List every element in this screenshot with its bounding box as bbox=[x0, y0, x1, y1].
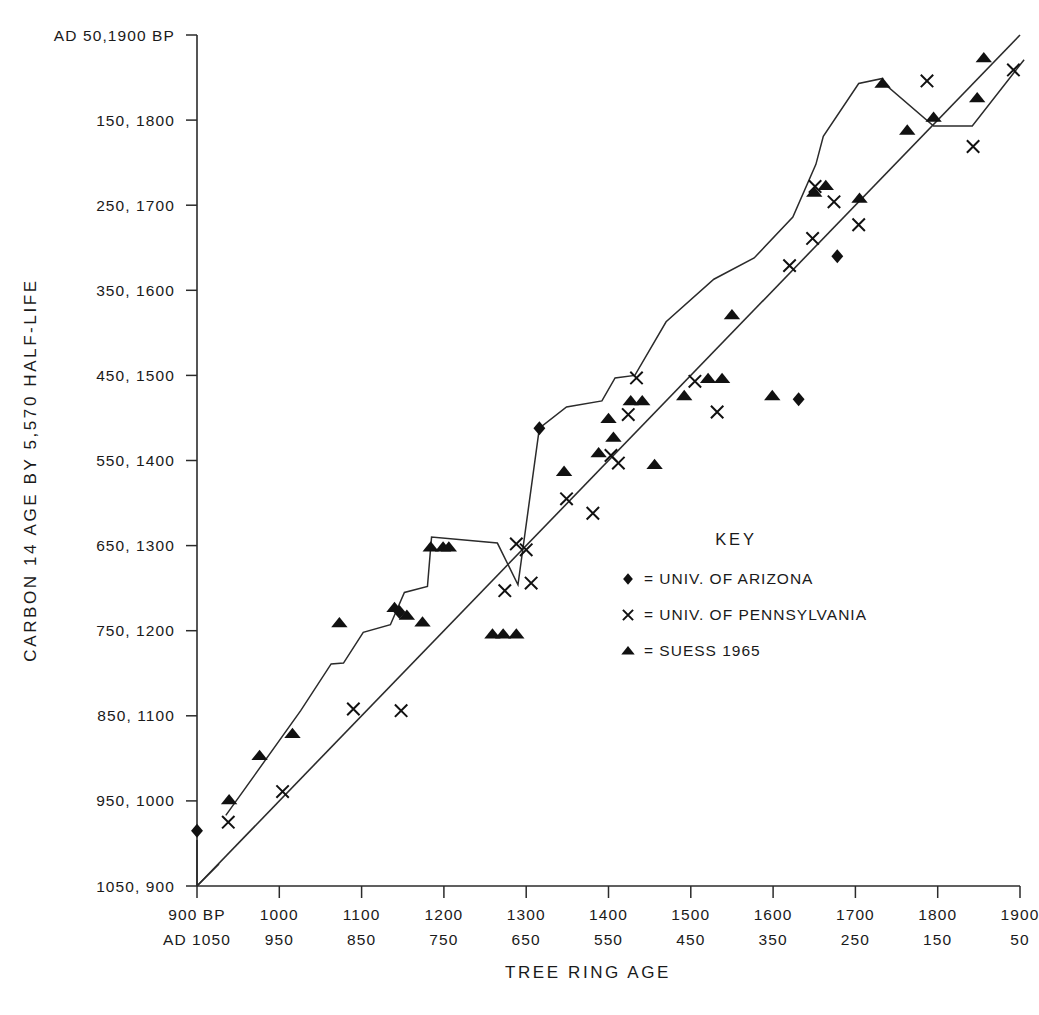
data-point-triangle-16 bbox=[605, 432, 621, 442]
x-tick-label-ad-1800: 150 bbox=[923, 931, 952, 948]
x-axis-tick-labels-bp: 900 BP1000110012001300140015001600170018… bbox=[168, 906, 1039, 923]
data-point-triangle-6 bbox=[414, 616, 430, 626]
data-point-triangle-23 bbox=[724, 309, 740, 319]
y-axis-tick-marks bbox=[186, 35, 197, 886]
x-tick-label-bp-900: 900 BP bbox=[168, 906, 225, 923]
data-point-x-21 bbox=[921, 75, 933, 87]
legend-label-1: = UNIV. OF PENNSYLVANIA bbox=[644, 606, 867, 623]
x-tick-label-bp-1100: 1100 bbox=[343, 906, 381, 923]
data-point-triangle-18 bbox=[634, 395, 650, 405]
y-axis-arrowhead bbox=[197, 840, 219, 886]
y-tick-label-900: 1050, 900 bbox=[96, 878, 175, 895]
x-tick-label-bp-1400: 1400 bbox=[589, 906, 628, 923]
legend-title: KEY bbox=[715, 530, 756, 548]
x-axis-tick-labels-ad: AD 105095085075065055045035025015050 bbox=[163, 931, 1030, 948]
x-tick-label-ad-1000: 950 bbox=[265, 931, 294, 948]
x-axis-tick-marks bbox=[197, 886, 1020, 898]
data-point-triangle-12 bbox=[508, 628, 524, 638]
reference-line bbox=[197, 35, 1020, 886]
x-tick-label-bp-1700: 1700 bbox=[836, 906, 875, 923]
data-point-triangle-3 bbox=[331, 617, 347, 627]
x-tick-label-ad-1600: 350 bbox=[759, 931, 788, 948]
data-point-triangle-11 bbox=[495, 628, 511, 638]
y-tick-label-1700: 250, 1700 bbox=[96, 197, 175, 214]
x-tick-label-ad-1100: 850 bbox=[347, 931, 376, 948]
x-tick-label-ad-1500: 450 bbox=[676, 931, 705, 948]
data-point-triangle-30 bbox=[925, 112, 941, 122]
x-tick-label-ad-1200: 750 bbox=[429, 931, 458, 948]
data-point-x-12 bbox=[622, 408, 634, 420]
data-point-x-17 bbox=[806, 232, 818, 244]
y-tick-label-1800: 150, 1800 bbox=[96, 112, 175, 129]
data-point-x-11 bbox=[612, 457, 624, 469]
data-point-triangle-21 bbox=[700, 373, 716, 383]
x-tick-label-bp-1900: 1900 bbox=[1001, 906, 1039, 923]
data-point-triangle-29 bbox=[899, 124, 915, 134]
y-tick-label-1100: 850, 1100 bbox=[97, 707, 175, 724]
data-point-diamond-3 bbox=[793, 392, 805, 406]
y-axis-title: CARBON 14 AGE BY 5,570 HALF-LIFE bbox=[21, 278, 40, 661]
data-point-triangle-15 bbox=[600, 413, 616, 423]
data-point-x-1 bbox=[276, 785, 288, 797]
carbon14-calibration-figure: AD 50,1900 BP150, 1800250, 1700350, 1600… bbox=[0, 0, 1039, 1015]
data-point-x-22 bbox=[967, 140, 979, 152]
legend-marker-triangle bbox=[621, 646, 634, 654]
x-tick-label-bp-1200: 1200 bbox=[424, 906, 463, 923]
series-univ-of-pennsylvania bbox=[222, 64, 1020, 829]
x-tick-label-ad-1400: 550 bbox=[594, 931, 623, 948]
x-tick-label-ad-1300: 650 bbox=[512, 931, 541, 948]
data-point-diamond-0 bbox=[191, 824, 203, 838]
data-point-x-2 bbox=[347, 703, 359, 715]
legend: = UNIV. OF ARIZONA= UNIV. OF PENNSYLVANI… bbox=[621, 570, 867, 659]
data-point-triangle-31 bbox=[969, 92, 985, 102]
data-point-x-3 bbox=[395, 704, 407, 716]
data-point-triangle-32 bbox=[976, 52, 992, 62]
calibration-curve bbox=[226, 60, 1024, 816]
data-point-x-16 bbox=[783, 259, 795, 271]
legend-label-2: = SUESS 1965 bbox=[644, 642, 761, 659]
data-point-x-0 bbox=[222, 816, 234, 828]
y-tick-label-1000: 950, 1000 bbox=[96, 792, 175, 809]
data-point-x-19 bbox=[828, 196, 840, 208]
y-tick-label-1200: 750, 1200 bbox=[96, 622, 175, 639]
legend-marker-x bbox=[623, 610, 633, 620]
y-axis-tick-labels: AD 50,1900 BP150, 1800250, 1700350, 1600… bbox=[54, 27, 175, 895]
x-tick-label-bp-1000: 1000 bbox=[260, 906, 299, 923]
data-point-diamond-2 bbox=[533, 421, 545, 435]
y-tick-label-1500: 450, 1500 bbox=[96, 367, 175, 384]
series-suess-1965 bbox=[221, 52, 992, 804]
x-tick-label-bp-1500: 1500 bbox=[671, 906, 710, 923]
x-tick-label-bp-1600: 1600 bbox=[754, 906, 793, 923]
x-tick-label-bp-1300: 1300 bbox=[507, 906, 546, 923]
data-point-triangle-1 bbox=[251, 750, 267, 760]
data-point-triangle-19 bbox=[646, 459, 662, 469]
y-tick-label-1900: AD 50,1900 BP bbox=[54, 27, 175, 44]
data-point-triangle-0 bbox=[221, 794, 237, 804]
x-tick-label-ad-900: AD 1050 bbox=[163, 931, 231, 948]
data-point-x-15 bbox=[711, 406, 723, 418]
x-axis-title: TREE RING AGE bbox=[505, 963, 671, 982]
y-tick-label-1400: 550, 1400 bbox=[96, 452, 175, 469]
legend-label-0: = UNIV. OF ARIZONA bbox=[644, 570, 813, 587]
x-tick-label-ad-1900: 50 bbox=[1010, 931, 1029, 948]
data-point-x-20 bbox=[852, 219, 864, 231]
y-tick-label-1600: 350, 1600 bbox=[96, 282, 175, 299]
data-point-x-14 bbox=[689, 375, 701, 387]
x-tick-label-bp-1800: 1800 bbox=[918, 906, 957, 923]
legend-marker-diamond bbox=[623, 573, 633, 584]
data-point-triangle-22 bbox=[714, 373, 730, 383]
data-point-x-7 bbox=[525, 577, 537, 589]
data-point-triangle-14 bbox=[590, 447, 606, 457]
data-point-triangle-20 bbox=[676, 390, 692, 400]
x-tick-label-ad-1700: 250 bbox=[841, 931, 870, 948]
chart-canvas: AD 50,1900 BP150, 1800250, 1700350, 1600… bbox=[0, 0, 1039, 1015]
y-tick-label-1300: 650, 1300 bbox=[96, 537, 175, 554]
data-point-x-9 bbox=[587, 507, 599, 519]
data-point-x-4 bbox=[499, 585, 511, 597]
data-point-triangle-13 bbox=[556, 466, 572, 476]
data-point-diamond-4 bbox=[831, 249, 843, 263]
data-point-triangle-24 bbox=[764, 390, 780, 400]
